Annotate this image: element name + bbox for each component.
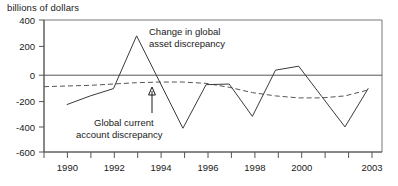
annotation-current-account-line1: Global current	[94, 117, 154, 128]
chart-svg: 400 200 0 -200 -400 -600 19	[0, 0, 398, 186]
y-tick-label--600: -600	[16, 147, 35, 158]
annotation-asset-line2: asset discrepancy	[149, 38, 225, 49]
y-axis-unit-label: billions of dollars	[7, 2, 79, 13]
y-tick-label--400: -400	[16, 122, 35, 133]
annotation-global-current-account-discrepancy: Global current account discrepancy	[76, 87, 163, 140]
y-tick-labels: 400 200 0 -200 -400 -600	[16, 15, 35, 158]
annotation-change-in-global-asset-discrepancy: Change in global asset discrepancy	[149, 26, 225, 49]
x-tick-label-1990: 1990	[57, 162, 78, 173]
series-change-in-global-asset-discrepancy	[67, 36, 368, 128]
chart-figure: billions of dollars 400 200 0 -200 -400 …	[0, 0, 398, 186]
annotation-current-account-line2: account discrepancy	[76, 129, 163, 140]
x-tick-label-2003: 2003	[361, 162, 382, 173]
y-tick-marks	[39, 20, 44, 152]
y-tick-label--200: -200	[16, 96, 35, 107]
y-tick-label-0: 0	[30, 70, 35, 81]
y-tick-label-200: 200	[19, 41, 35, 52]
x-tick-labels: 1990 1992 1994 1996 1998 2000 2003	[57, 162, 383, 173]
y-tick-label-400: 400	[19, 15, 35, 26]
x-tick-label-1992: 1992	[104, 162, 125, 173]
x-tick-label-1994: 1994	[151, 162, 172, 173]
x-tick-marks	[44, 152, 372, 158]
x-tick-label-2000: 2000	[291, 162, 312, 173]
x-tick-label-1998: 1998	[244, 162, 265, 173]
annotation-asset-line1: Change in global	[149, 26, 220, 37]
x-tick-label-1996: 1996	[197, 162, 218, 173]
